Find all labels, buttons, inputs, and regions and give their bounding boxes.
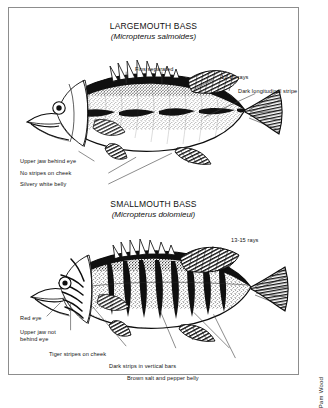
- label-dark-strips-vertical-bars: Dark strips in vertical bars: [109, 363, 176, 370]
- label-fins-separated: Fins separated: [135, 66, 173, 73]
- label-dark-longitudinal-stripe: Dark longitudinal stripe: [238, 88, 297, 95]
- label-rays-smallmouth: 13-15 rays: [231, 237, 258, 244]
- panel-smallmouth-bass: SMALLMOUTH BASS (Micropterus dolomieui): [9, 191, 298, 374]
- label-upper-jaw-behind-eye: Upper jaw behind eye: [20, 158, 76, 165]
- label-upper-jaw-not-behind-eye: Upper jaw not behind eye: [20, 329, 72, 343]
- largemouth-common-name: LARGEMOUTH BASS: [9, 21, 298, 32]
- label-silvery-white-belly: Silvery white belly: [20, 181, 66, 188]
- label-no-stripes-on-cheek: No stripes on cheek: [20, 170, 71, 177]
- largemouth-scientific-name: (Micropterus salmoides): [9, 32, 298, 42]
- illustration-plate: LARGEMOUTH BASS (Micropterus salmoides): [8, 7, 299, 375]
- smallmouth-scientific-name: (Micropterus dolomieui): [9, 210, 298, 220]
- smallmouth-common-name: SMALLMOUTH BASS: [9, 199, 298, 210]
- largemouth-title-block: LARGEMOUTH BASS (Micropterus salmoides): [9, 21, 298, 42]
- label-brown-salt-pepper-belly: Brown salt and pepper belly: [127, 375, 199, 382]
- label-red-eye: Red eye: [20, 315, 42, 322]
- smallmouth-title-block: SMALLMOUTH BASS (Micropterus dolomieui): [9, 199, 298, 220]
- label-tiger-stripes-on-cheek: Tiger stripes on cheek: [49, 351, 106, 358]
- panel-largemouth-bass: LARGEMOUTH BASS (Micropterus salmoides): [9, 8, 298, 191]
- label-rays-largemouth: 12-13 rays: [221, 74, 248, 81]
- artist-credit: Pam Wood: [318, 377, 324, 408]
